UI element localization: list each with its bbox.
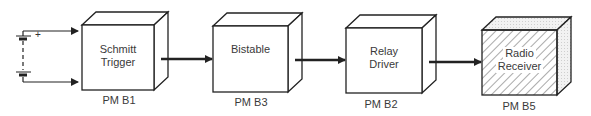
label-line2: Trigger (82, 56, 154, 69)
block-label-schmitt-trigger: Schmitt Trigger (82, 43, 154, 69)
label-line2: Receiver (496, 60, 543, 73)
block-label-relay-driver: Relay Driver (346, 45, 422, 71)
module-code-b1: PM B1 (95, 94, 143, 106)
label-line1: Radio (503, 47, 536, 60)
label-line1: Bistable (213, 43, 288, 56)
label-line1: Relay (346, 45, 422, 58)
battery-icon (16, 31, 78, 82)
module-code-b3: PM B3 (227, 96, 275, 108)
module-code-b5: PM B5 (495, 100, 543, 112)
block-label-bistable: Bistable (213, 43, 288, 56)
label-line2: Driver (346, 58, 422, 71)
module-code-b2: PM B2 (357, 98, 405, 110)
label-line1: Schmitt (82, 43, 154, 56)
plus-sign: + (35, 29, 41, 40)
block-label-radio-receiver: Radio Receiver (482, 47, 557, 73)
